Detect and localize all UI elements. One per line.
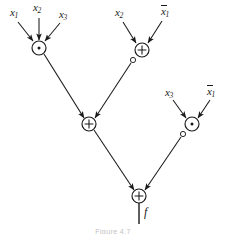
input-label-x1-a: x1 xyxy=(10,7,18,20)
wire-x1bar-to-and4 xyxy=(198,100,210,118)
inversion-bubble-icon xyxy=(180,131,185,136)
input-label-x2-a: x2 xyxy=(33,2,41,15)
gate-and-4[interactable] xyxy=(180,117,199,137)
gate-and-1[interactable] xyxy=(32,41,46,55)
wire-x1bar-to-xor2 xyxy=(148,21,162,43)
figure-caption: Figure 4.7 xyxy=(0,228,226,234)
and-dot-icon xyxy=(38,47,41,50)
output-label-f: f xyxy=(144,206,147,218)
input-label-x1bar-c: x1 xyxy=(207,86,215,99)
input-label-x1bar-b: x1 xyxy=(161,6,169,19)
wire-x1-to-and1 xyxy=(18,22,33,41)
input-label-x3-c: x3 xyxy=(165,87,173,100)
wires-layer xyxy=(18,18,210,224)
wire-and4-to-xor5 xyxy=(145,137,181,190)
wire-x3-to-and4 xyxy=(173,100,186,118)
inversion-bubble-icon xyxy=(130,57,135,62)
wire-x2-to-xor2 xyxy=(123,22,136,43)
wire-xor2-to-xor3 xyxy=(95,63,131,118)
gate-xor-5[interactable] xyxy=(132,189,146,203)
gate-xor-2[interactable] xyxy=(130,43,149,63)
gate-xor-3[interactable] xyxy=(82,117,96,131)
and-dot-icon xyxy=(191,123,194,126)
input-label-x2-b: x2 xyxy=(115,7,123,20)
input-label-x3-a: x3 xyxy=(59,9,67,22)
wire-xor3-to-xor5 xyxy=(94,130,134,190)
wire-x3-to-and1 xyxy=(45,23,60,41)
wire-and1-to-xor3 xyxy=(44,54,84,118)
circuit-diagram xyxy=(0,0,226,234)
gates-layer xyxy=(32,41,199,203)
